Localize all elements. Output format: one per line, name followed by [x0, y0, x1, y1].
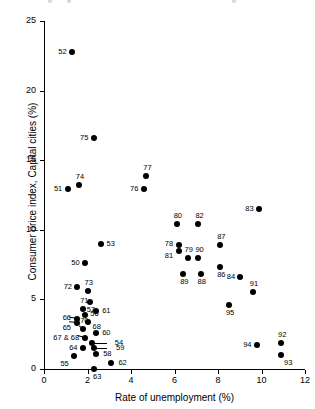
data-point-label: 77 [143, 164, 151, 172]
data-point-label: 55 [60, 360, 68, 368]
y-tick-label: 10 [16, 225, 36, 234]
data-point [80, 345, 86, 351]
y-axis-title: Consumer price index, Capital cities (%) [27, 72, 38, 312]
y-tick-label: 25 [16, 16, 36, 25]
y-tick-mark [40, 21, 44, 22]
data-point [69, 49, 75, 55]
data-point [71, 353, 77, 359]
y-tick-mark [40, 230, 44, 231]
data-point-label: 61 [102, 307, 110, 315]
y-tick-mark [40, 160, 44, 161]
data-point-label: 64 [69, 344, 77, 352]
data-point-label: 58 [103, 350, 111, 358]
data-point [74, 284, 80, 290]
data-point-label: 65 [63, 324, 71, 332]
data-point [254, 342, 260, 348]
data-point-label: 73 [85, 279, 93, 287]
data-point-label: 89 [180, 278, 188, 286]
data-point-label: 60 [102, 329, 110, 337]
data-point-label: 84 [227, 273, 235, 281]
data-point-label: 90 [195, 246, 203, 254]
data-point [237, 274, 243, 280]
data-point [195, 255, 201, 261]
data-point-label: 52 [58, 48, 66, 56]
data-point [65, 186, 71, 192]
data-point [76, 182, 82, 188]
x-tick-mark [44, 370, 45, 374]
data-point-label: 75 [80, 134, 88, 142]
data-point-label: 63 [93, 373, 101, 381]
data-point [195, 221, 201, 227]
data-point [91, 135, 97, 141]
data-point-label: 71 [80, 297, 88, 305]
x-tick-label: 10 [252, 376, 272, 385]
y-tick-label: 15 [16, 155, 36, 164]
x-tick-label: 6 [165, 376, 185, 385]
x-tick-mark [131, 370, 132, 374]
data-point-label: 50 [71, 259, 79, 267]
data-point [80, 326, 86, 332]
data-point [82, 260, 88, 266]
data-point-label: 95 [226, 309, 234, 317]
data-point-label: 66 [63, 314, 71, 322]
data-point-label: 68 [93, 323, 101, 331]
clipped-top-artifact [0, 0, 315, 7]
data-point-label: 70 [80, 317, 88, 325]
y-tick-mark [40, 299, 44, 300]
data-point-label: 80 [174, 212, 182, 220]
data-point-label: 92 [278, 331, 286, 339]
data-point-label: 91 [250, 280, 258, 288]
data-point [82, 335, 88, 341]
data-point [176, 248, 182, 254]
data-point-label: 76 [130, 185, 138, 193]
data-point-label: 59 [116, 344, 124, 352]
y-tick-mark [40, 91, 44, 92]
data-point [185, 255, 191, 261]
y-tick-label: 20 [16, 86, 36, 95]
data-point [93, 351, 99, 357]
data-point-label: 78 [165, 240, 173, 248]
data-point [85, 288, 91, 294]
y-axis-line [44, 21, 45, 369]
data-point [143, 173, 149, 179]
data-point [250, 289, 256, 295]
data-point [278, 340, 284, 346]
data-point-label: 51 [54, 185, 62, 193]
data-point-label: 94 [243, 341, 251, 349]
data-point [141, 186, 147, 192]
data-point-label: 79 [185, 246, 193, 254]
data-point-label: 56 [90, 310, 98, 318]
data-point [74, 320, 80, 326]
data-point [98, 241, 104, 247]
data-point-label: 86 [217, 271, 225, 279]
x-tick-label: 12 [295, 376, 315, 385]
data-point [93, 330, 99, 336]
data-point-label: 93 [284, 359, 292, 367]
data-point-label: 81 [165, 252, 173, 260]
data-point-label: 82 [195, 212, 203, 220]
data-point-label: 62 [118, 359, 126, 367]
data-point-label: 88 [198, 278, 206, 286]
data-point [217, 242, 223, 248]
data-point-label: 53 [107, 240, 115, 248]
scatter-plot: Consumer price index, Capital cities (%)… [0, 0, 315, 409]
x-tick-label: 4 [121, 376, 141, 385]
data-point-label: 83 [245, 205, 253, 213]
x-tick-mark [262, 370, 263, 374]
x-tick-mark [305, 370, 306, 374]
data-point [174, 221, 180, 227]
data-point-label: 67 & 68 [53, 334, 79, 342]
x-tick-label: 0 [34, 376, 54, 385]
x-tick-mark [88, 370, 89, 374]
x-tick-mark [175, 370, 176, 374]
y-tick-label: 0 [16, 364, 36, 373]
x-tick-mark [218, 370, 219, 374]
x-axis-title: Rate of unemployment (%) [44, 392, 305, 403]
x-tick-label: 8 [208, 376, 228, 385]
data-point-label: 72 [64, 283, 72, 291]
y-tick-label: 5 [16, 294, 36, 303]
data-point [256, 206, 262, 212]
data-point-label: 87 [217, 233, 225, 241]
data-point-label: 74 [76, 173, 84, 181]
data-point [108, 360, 114, 366]
